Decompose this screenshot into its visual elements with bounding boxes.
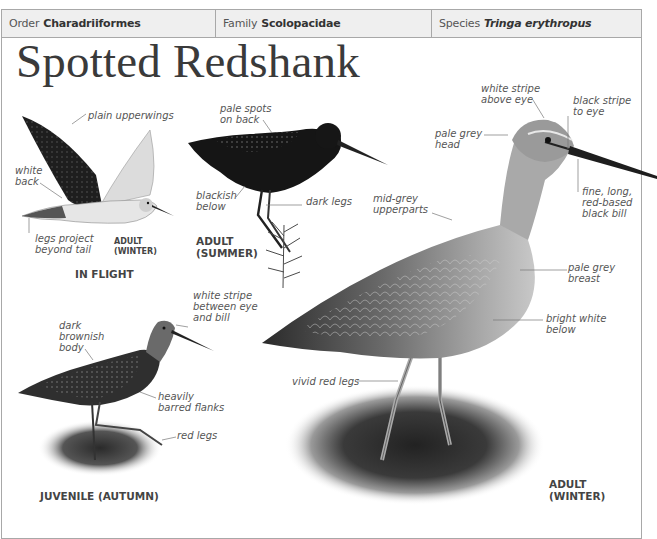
annotation-white-back-2: back bbox=[15, 176, 39, 187]
annotation-blackish-below-1: blackish bbox=[196, 190, 237, 201]
in-flight-subcaption-2: (WINTER) bbox=[114, 247, 157, 257]
in-flight-bird bbox=[22, 114, 174, 233]
annotation-white-stripe-between-2: between eye bbox=[193, 301, 258, 312]
annotation-white-stripe-above-1: white stripe bbox=[481, 83, 540, 94]
in-flight-subcaption-1: ADULT bbox=[114, 237, 143, 247]
annotation-white-back-1: white bbox=[15, 165, 42, 176]
annotation-dark-brownish-body-1: dark bbox=[59, 320, 81, 331]
annotation-bright-white-below-1: bright white bbox=[546, 313, 606, 324]
annotation-pale-grey-head-1: pale grey bbox=[435, 128, 482, 139]
annotation-blackish-below-2: below bbox=[196, 201, 226, 212]
adult-winter-caption-2: (WINTER) bbox=[549, 490, 605, 502]
annotation-dark-brownish-body-2: brownish bbox=[59, 331, 104, 342]
annotation-mid-grey-upperparts-2: upperparts bbox=[373, 204, 428, 215]
in-flight-caption: IN FLIGHT bbox=[75, 268, 134, 280]
annotation-bill-1: fine, long, bbox=[582, 186, 632, 197]
annotation-pale-spots-1: pale spots bbox=[220, 103, 271, 114]
annotation-dark-legs: dark legs bbox=[306, 196, 352, 207]
annotation-heavily-barred-flanks-1: heavily bbox=[158, 391, 194, 402]
annotation-pale-grey-head-2: head bbox=[435, 139, 460, 150]
annotation-dark-brownish-body-3: body bbox=[59, 342, 84, 353]
annotation-heavily-barred-flanks-2: barred flanks bbox=[158, 402, 224, 413]
annotation-white-stripe-above-2: above eye bbox=[481, 94, 533, 105]
annotation-vivid-red-legs: vivid red legs bbox=[292, 376, 359, 387]
annotation-white-stripe-between-3: and bill bbox=[193, 312, 230, 323]
juvenile-caption: JUVENILE (AUTUMN) bbox=[40, 490, 159, 502]
annotation-bill-2: red-based bbox=[582, 197, 632, 208]
adult-summer-caption-1: ADULT bbox=[196, 235, 233, 247]
annotation-black-stripe-1: black stripe bbox=[573, 95, 631, 106]
annotation-black-stripe-2: to eye bbox=[573, 106, 604, 117]
annotation-legs-project-1: legs project bbox=[35, 233, 94, 244]
annotation-plain-upperwings: plain upperwings bbox=[88, 110, 174, 121]
annotation-white-stripe-between-1: white stripe bbox=[193, 290, 252, 301]
annotation-mid-grey-upperparts-1: mid-grey bbox=[373, 193, 418, 204]
annotation-pale-grey-breast-2: breast bbox=[568, 273, 600, 284]
adult-winter-caption-1: ADULT bbox=[549, 478, 586, 490]
annotation-red-legs: red legs bbox=[177, 430, 217, 441]
annotation-bill-3: black bill bbox=[582, 208, 626, 219]
annotation-bright-white-below-2: below bbox=[546, 324, 576, 335]
annotation-pale-spots-2: on back bbox=[220, 114, 259, 125]
adult-summer-caption-2: (SUMMER) bbox=[196, 247, 258, 259]
annotation-pale-grey-breast-1: pale grey bbox=[568, 262, 615, 273]
annotation-legs-project-2: beyond tail bbox=[35, 244, 91, 255]
